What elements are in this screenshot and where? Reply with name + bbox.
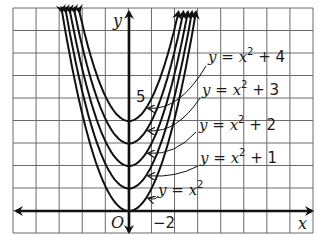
y-axis-label: y [113,13,122,29]
eq-y: y [202,81,210,99]
eq-sign: = [212,116,225,134]
curve-label-x2: y = x2 [158,183,203,198]
eq-constant: + 3 [252,81,279,99]
eq-x: x [239,48,247,66]
eq-x: x [233,81,241,99]
eq-exponent: 2 [239,147,245,158]
y-tick-label-5: 5 [136,90,146,105]
eq-constant: + 2 [249,116,276,134]
eq-sign: = [221,48,234,66]
curve-label-x2-plus-4: y = x2 + 4 [208,50,285,65]
x-tick-label-minus-2: −2 [153,216,175,231]
eq-x: x [231,149,239,167]
eq-constant: + 1 [250,149,277,167]
x-axis-label: x [298,216,307,232]
eq-constant: + 4 [258,48,285,66]
curve-label-x2-plus-3: y = x2 + 3 [202,83,279,98]
curve-label-x2-plus-2: y = x2 + 2 [199,118,276,133]
eq-exponent: 2 [247,46,253,57]
eq-y: y [200,149,208,167]
eq-y: y [208,48,216,66]
eq-x: x [230,116,238,134]
curve-label-x2-plus-1: y = x2 + 1 [200,151,277,166]
eq-sign: = [215,81,228,99]
leader-line [149,166,198,176]
eq-y: y [199,116,207,134]
origin-label: O [111,215,124,231]
eq-sign: = [213,149,226,167]
eq-sign: = [171,181,184,199]
eq-x: x [189,181,197,199]
eq-exponent: 2 [197,179,203,190]
eq-y: y [158,181,166,199]
leader-line [149,196,158,199]
eq-exponent: 2 [238,114,244,125]
eq-exponent: 2 [241,79,247,90]
